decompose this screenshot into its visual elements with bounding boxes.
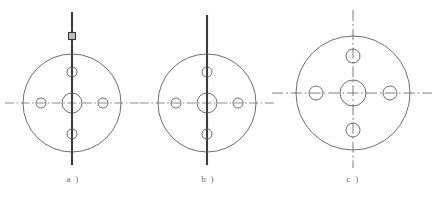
technical-drawing-canvas [0,0,435,203]
caption-subfigure-c: c ) [328,174,378,184]
subfigure-c [272,10,432,168]
square-marker-a [69,33,76,40]
figure-page: a ) b ) c ) [0,0,435,203]
caption-subfigure-b: b ) [183,174,233,184]
subfigure-b [140,15,276,165]
caption-subfigure-a: a ) [48,174,98,184]
subfigure-a [5,12,139,165]
